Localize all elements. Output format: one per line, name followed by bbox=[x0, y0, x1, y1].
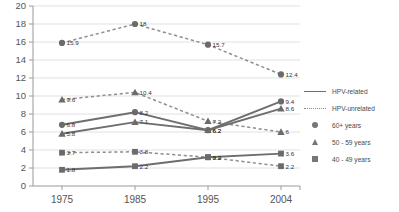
data-point-marker bbox=[277, 105, 284, 112]
data-point-label: 5.8 bbox=[67, 130, 76, 137]
data-point-label: 3.7 bbox=[67, 149, 76, 156]
data-point-marker bbox=[205, 42, 211, 48]
chart-legend: HPV-related HPV-unrelated 60+ years 50 -… bbox=[303, 84, 399, 169]
data-point-marker bbox=[132, 21, 138, 27]
legend-label: HPV-related bbox=[327, 88, 368, 95]
chart-container: 02468101214161820 1975198519952004 15.91… bbox=[0, 0, 399, 212]
data-point-label: 3.2 bbox=[213, 154, 222, 161]
data-point-label: 7.2 bbox=[213, 118, 222, 125]
legend-label: 50 - 59 years bbox=[327, 139, 370, 146]
data-point-marker bbox=[132, 163, 138, 169]
y-axis-tick-label: 8 bbox=[21, 108, 26, 119]
y-axis-tick-label: 18 bbox=[15, 18, 26, 29]
data-point-marker bbox=[59, 122, 65, 128]
legend-item-60-plus-years[interactable]: 60+ years bbox=[303, 118, 399, 132]
x-axis-tick-label: 2004 bbox=[270, 194, 293, 205]
data-point-marker bbox=[59, 40, 65, 46]
legend-item-40-49-years[interactable]: 40 - 49 years bbox=[303, 152, 399, 166]
data-point-label: 2.2 bbox=[140, 163, 149, 170]
x-axis: 1975198519952004 bbox=[33, 186, 300, 205]
data-point-label: 10.4 bbox=[140, 89, 153, 96]
y-axis: 02468101214161820 bbox=[15, 0, 33, 191]
data-point-label: 12.4 bbox=[286, 71, 299, 78]
data-point-marker bbox=[204, 118, 211, 125]
data-point-label: 8.6 bbox=[286, 105, 295, 112]
legend-label: 40 - 49 years bbox=[327, 156, 370, 163]
legend-label: 60+ years bbox=[327, 122, 361, 129]
data-point-marker bbox=[59, 167, 65, 173]
legend-label: HPV-unrelated bbox=[327, 105, 375, 112]
legend-item-hpv-unrelated[interactable]: HPV-unrelated bbox=[303, 101, 399, 115]
data-point-label: 2.2 bbox=[286, 163, 295, 170]
data-point-label: 7.1 bbox=[140, 118, 149, 125]
data-point-marker bbox=[132, 149, 138, 155]
data-point-label: 8.2 bbox=[140, 109, 149, 116]
x-axis-tick-label: 1985 bbox=[124, 194, 147, 205]
data-point-label: 6.2 bbox=[213, 127, 222, 134]
data-point-label: 1.8 bbox=[67, 166, 76, 173]
data-point-label: 6 bbox=[286, 128, 290, 135]
data-point-label: 9.4 bbox=[286, 98, 295, 105]
data-point-marker bbox=[205, 154, 211, 160]
triangle-marker-icon bbox=[303, 136, 327, 148]
series-line bbox=[62, 152, 281, 166]
y-axis-tick-label: 12 bbox=[15, 72, 26, 83]
data-point-marker bbox=[59, 150, 65, 156]
data-point-marker bbox=[132, 109, 138, 115]
data-point-marker bbox=[278, 71, 284, 77]
circle-marker-icon bbox=[303, 119, 327, 131]
gridlines bbox=[33, 6, 300, 168]
y-axis-tick-label: 0 bbox=[21, 180, 26, 191]
line-dotted-icon bbox=[303, 102, 327, 114]
data-point-label: 18 bbox=[140, 20, 147, 27]
data-point-label: 15.7 bbox=[213, 41, 226, 48]
series-lines bbox=[62, 24, 281, 170]
data-point-label: 3.6 bbox=[286, 150, 295, 157]
data-point-marker bbox=[278, 98, 284, 104]
y-axis-tick-label: 6 bbox=[21, 126, 26, 137]
series-line bbox=[62, 24, 281, 74]
legend-item-hpv-related[interactable]: HPV-related bbox=[303, 84, 399, 98]
square-marker-icon bbox=[303, 153, 327, 165]
y-axis-tick-label: 10 bbox=[15, 90, 26, 101]
y-axis-tick-label: 16 bbox=[15, 36, 26, 47]
x-axis-tick-label: 1975 bbox=[51, 194, 74, 205]
legend-item-50-59-years[interactable]: 50 - 59 years bbox=[303, 135, 399, 149]
y-axis-tick-label: 2 bbox=[21, 162, 26, 173]
data-point-label: 3.8 bbox=[140, 148, 149, 155]
y-axis-tick-label: 14 bbox=[15, 54, 26, 65]
y-axis-tick-label: 4 bbox=[21, 144, 26, 155]
data-point-label: 9.6 bbox=[67, 96, 76, 103]
x-axis-tick-label: 1995 bbox=[197, 194, 220, 205]
data-point-label: 15.9 bbox=[67, 39, 80, 46]
data-point-label: 6.8 bbox=[67, 121, 76, 128]
line-solid-icon bbox=[303, 85, 327, 97]
data-point-marker bbox=[278, 151, 284, 157]
data-point-marker bbox=[278, 163, 284, 169]
y-axis-tick-label: 20 bbox=[15, 0, 26, 11]
